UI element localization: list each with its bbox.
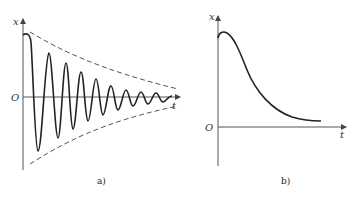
figure: x O t a) x O t b) [0, 0, 361, 198]
x-axis-label-a: t [172, 100, 177, 111]
y-axis-label-a: x [13, 16, 19, 27]
origin-label-a: O [11, 92, 19, 103]
origin-label-b: O [205, 122, 213, 133]
panel-b: x O t b) [205, 11, 346, 186]
damped-oscillation-curve [23, 34, 172, 151]
caption-b: b) [281, 176, 290, 186]
overdamped-curve [218, 32, 321, 121]
caption-a: a) [97, 176, 106, 186]
y-axis-label-b: x [209, 11, 215, 22]
panel-a: x O t a) [11, 16, 180, 186]
x-axis-label-b: t [340, 129, 345, 140]
